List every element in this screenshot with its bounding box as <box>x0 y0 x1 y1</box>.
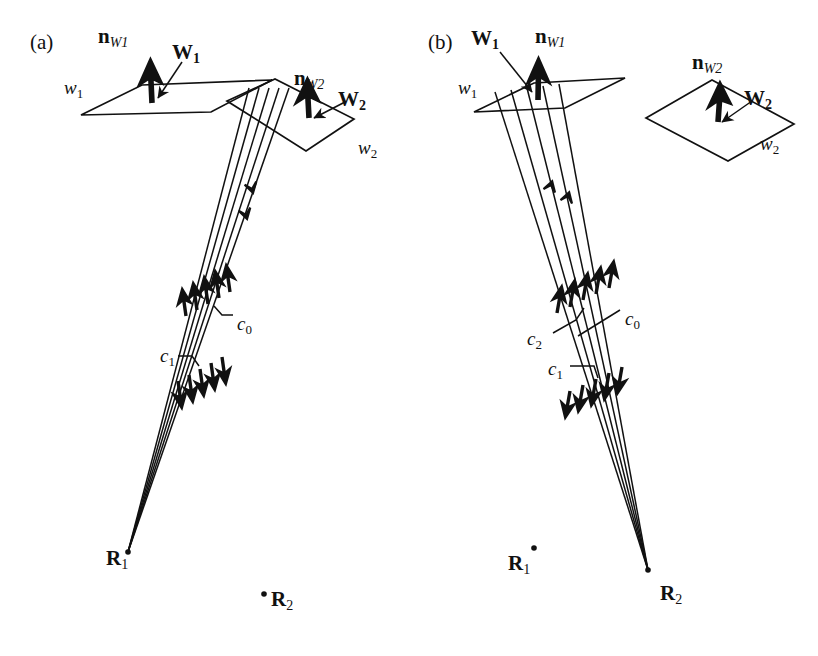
plane-label-w1-a: w1 <box>64 78 83 100</box>
ray-label-c1-a: c1 <box>160 346 175 368</box>
point-label-R2-b-text: R <box>660 581 675 605</box>
panel-a-graphics <box>81 62 354 597</box>
point-R1-b <box>531 545 537 551</box>
vector-label-W1-b-sub: 1 <box>492 37 499 52</box>
plane-label-w2-b-sub: 2 <box>773 142 780 157</box>
ray-b-0 <box>495 92 648 570</box>
plane-label-w2-a: w2 <box>358 138 377 160</box>
ray-label-c1-b-sub: 1 <box>556 367 563 382</box>
point-R2-a <box>261 591 267 597</box>
ray-a-3 <box>128 88 279 552</box>
vector-label-W2-b: W2 <box>744 88 772 112</box>
ray-label-c2-b: c2 <box>527 329 542 351</box>
plane-w2-a <box>227 79 354 151</box>
vector-label-W2-a: W2 <box>338 89 366 113</box>
vector-label-W2-a-sub: 2 <box>359 98 366 113</box>
wavefront-c1-b <box>560 366 627 417</box>
point-label-R1-b-sub: 1 <box>523 562 530 577</box>
ray-label-c0-b-sub: 0 <box>633 317 640 332</box>
point-label-R2-b: R2 <box>660 583 682 607</box>
leader-c0-a <box>214 306 233 315</box>
point-label-R1-b: R1 <box>508 553 530 577</box>
point-label-R2-a: R2 <box>271 589 293 613</box>
ray-label-c1-b: c1 <box>548 359 563 381</box>
point-label-R1-b-text: R <box>508 551 523 575</box>
ray-a-4 <box>128 88 289 552</box>
plane-label-w2-a-sub: 2 <box>371 146 378 161</box>
normal-label-nW2-a-sub: W2 <box>306 77 325 92</box>
vector-label-W1-a: W1 <box>172 42 200 66</box>
ray-label-c0-a-sub: 0 <box>245 322 252 337</box>
panel-label-a: (a) <box>30 32 53 53</box>
normal-label-nW2-a-text: n <box>294 66 306 90</box>
normal-label-nW2-a: nW2 <box>294 68 324 92</box>
normal-arrow-nW2-b <box>712 86 728 122</box>
normal-label-nW2-b-text: n <box>692 50 704 74</box>
vector-label-W1-a-sub: 1 <box>193 51 200 66</box>
panel-label-b: (b) <box>428 32 453 53</box>
ray-label-c1-a-sub: 1 <box>168 354 175 369</box>
plane-label-w2-a-text: w <box>358 137 371 158</box>
vector-label-W2-a-text: W <box>338 87 359 111</box>
ray-bundle-a <box>128 88 289 552</box>
vector-label-W1-a-text: W <box>172 40 193 64</box>
point-label-R2-a-text: R <box>271 587 286 611</box>
point-R2-b <box>645 567 651 573</box>
plane-label-w1-b: w1 <box>458 78 477 100</box>
ray-label-c0-b: c0 <box>625 309 640 331</box>
normal-arrow-nW1-b <box>531 62 546 100</box>
vector-label-W2-b-text: W <box>744 86 765 110</box>
plane-label-w1-a-sub: 1 <box>77 86 84 101</box>
point-label-R2-a-sub: 2 <box>286 598 293 613</box>
normal-arrow-nW1-a <box>143 63 159 103</box>
point-label-R1-a-text: R <box>106 546 121 570</box>
normal-label-nW2-b: nW2 <box>692 52 722 76</box>
vector-label-W1-b: W1 <box>471 28 499 52</box>
normal-label-nW1-b-text: n <box>535 24 547 48</box>
plane-label-w2-b-text: w <box>760 133 773 154</box>
point-label-R1-a: R1 <box>106 548 128 572</box>
normal-label-nW1-b-sub: W1 <box>547 35 566 50</box>
ray-label-c0-a: c0 <box>237 314 252 336</box>
normal-label-nW1-a-sub: W1 <box>110 35 129 50</box>
plane-label-w1-b-sub: 1 <box>471 86 478 101</box>
propagation-arrows-b <box>544 179 575 203</box>
normal-label-nW1-b: nW1 <box>535 26 565 50</box>
point-label-R2-b-sub: 2 <box>675 592 682 607</box>
point-label-R1-a-sub: 1 <box>121 557 128 572</box>
normal-label-nW1-a: nW1 <box>98 26 128 50</box>
normal-label-nW1-a-text: n <box>98 24 110 48</box>
plane-label-w1-b-text: w <box>458 77 471 98</box>
leader-W1-b <box>500 52 532 92</box>
ray-label-c2-b-sub: 2 <box>535 337 542 352</box>
plane-label-w1-a-text: w <box>64 77 77 98</box>
plane-label-w2-b: w2 <box>760 134 779 156</box>
vector-label-W1-b-text: W <box>471 26 492 50</box>
ray-a-0 <box>128 88 249 552</box>
vector-label-W2-b-sub: 2 <box>765 97 772 112</box>
figure-root: (a) w1 w2 nW1 nW2 W1 W2 c0 c1 R1 R2 (b) … <box>0 0 818 656</box>
normal-label-nW2-b-sub: W2 <box>704 61 723 76</box>
